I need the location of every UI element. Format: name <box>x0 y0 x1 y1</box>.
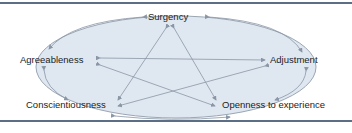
node-conscientiousness: Conscientiousness <box>26 100 106 110</box>
bottom-rule <box>0 120 352 122</box>
node-adjustment: Adjustment <box>270 55 318 65</box>
node-openness-to-experience: Openness to experience <box>222 100 325 110</box>
node-agreeableness: Agreeableness <box>20 55 83 65</box>
node-surgency: Surgency <box>148 12 188 22</box>
